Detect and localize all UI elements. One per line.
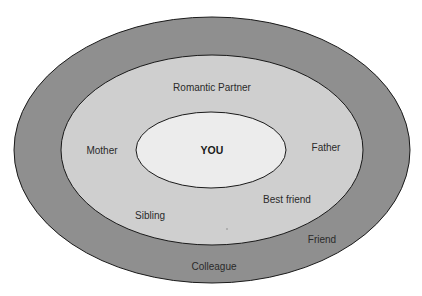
label-sibling: Sibling xyxy=(135,210,165,221)
label-colleague: Colleague xyxy=(191,261,236,272)
label-father: Father xyxy=(312,142,342,153)
speck-dot xyxy=(226,228,227,229)
label-friend: Friend xyxy=(308,234,336,245)
label-romantic-partner: Romantic Partner xyxy=(173,82,251,93)
label-you: YOU xyxy=(201,144,224,156)
relationship-circles-diagram: YOU Romantic Partner Mother Father Best … xyxy=(0,0,422,296)
label-mother: Mother xyxy=(86,145,118,156)
label-best-friend: Best friend xyxy=(263,194,311,205)
